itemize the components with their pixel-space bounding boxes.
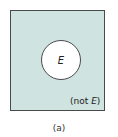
figure-caption: (a): [0, 123, 118, 133]
event-label: E: [58, 55, 64, 66]
event-circle: E: [41, 40, 81, 80]
complement-label: (not E): [70, 96, 100, 106]
complement-label-suffix: ): [97, 96, 101, 106]
complement-label-prefix: (not: [70, 96, 91, 106]
